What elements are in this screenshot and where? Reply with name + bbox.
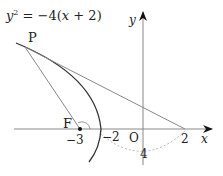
focus-point bbox=[78, 127, 82, 131]
equation-label: y2 = −4(x + 2) bbox=[5, 8, 102, 23]
label-P: P bbox=[28, 30, 37, 45]
tick-label-neg2: −2 bbox=[102, 130, 120, 144]
tick-label-2: 2 bbox=[181, 132, 189, 146]
label-F: F bbox=[63, 116, 72, 131]
y-axis-label: y bbox=[128, 13, 136, 27]
label-origin: O bbox=[129, 131, 139, 145]
tick-label-neg3: −3 bbox=[66, 133, 84, 147]
parabola-curve bbox=[16, 43, 101, 162]
x-axis-label: x bbox=[201, 132, 208, 146]
segment-P-to-2 bbox=[25, 47, 185, 129]
parabola-diagram: y2 = −4(x + 2) P F −3 −2 O 2 x y 4 bbox=[0, 0, 223, 176]
arc-length-label: 4 bbox=[140, 147, 148, 161]
